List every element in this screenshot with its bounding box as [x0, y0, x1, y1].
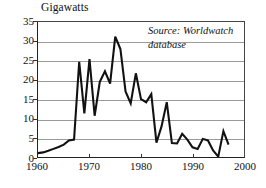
chart-axis-title: Gigawatts [41, 1, 89, 14]
source-annotation-line-1: Source: Worldwatch [148, 24, 244, 38]
y-axis-tick-label: 35 [0, 16, 34, 27]
x-axis-tick-mark [89, 154, 90, 158]
x-axis-tick-label: 1990 [173, 160, 213, 172]
y-axis-tick-label: 20 [0, 74, 34, 85]
x-axis-tick-label: 1980 [121, 160, 161, 172]
source-annotation: Source: Worldwatch database [148, 24, 244, 52]
y-axis-tick-label: 10 [0, 113, 34, 124]
y-axis-tick-label: 15 [0, 94, 34, 105]
source-annotation-line-2: database [148, 38, 244, 52]
x-axis-tick-mark [193, 154, 194, 158]
x-axis-tick-label: 1960 [17, 160, 57, 172]
x-axis-tick-label: 1970 [69, 160, 109, 172]
y-axis-tick-label: 5 [0, 133, 34, 144]
y-axis-tick-label: 25 [0, 55, 34, 66]
y-axis-tick-mark [33, 158, 37, 159]
chart-container: Gigawatts 05101520253035 196019701980199… [0, 0, 266, 188]
y-axis-tick-label: 30 [0, 35, 34, 46]
x-axis-tick-label: 2000 [225, 160, 265, 172]
x-axis-tick-mark [141, 154, 142, 158]
